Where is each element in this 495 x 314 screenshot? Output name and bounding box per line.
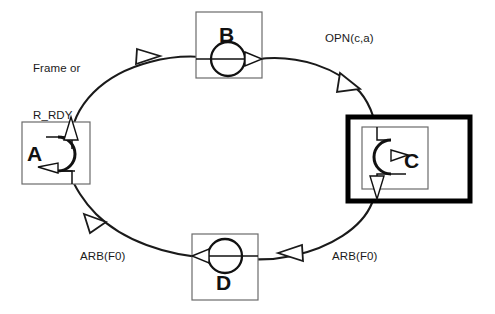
edge-label-frame-rrdy-line2: R_RDY (33, 108, 80, 124)
ring-arrowheads-group (84, 49, 360, 261)
node-d[interactable]: D (192, 234, 258, 300)
edge-label-arb-right: ARB(F0) (332, 249, 377, 265)
node-b[interactable]: B (196, 12, 262, 78)
arrowhead-b-to-c (337, 73, 360, 92)
node-c[interactable]: C (348, 117, 470, 201)
edge-label-arb-left: ARB(F0) (80, 249, 125, 265)
node-d-label: D (216, 271, 231, 294)
arrowhead-d-to-a (84, 214, 106, 233)
edge-label-frame-rrdy-line1: Frame or (33, 61, 80, 77)
node-c-label: C (404, 149, 419, 172)
ring-path-group (70, 57, 373, 260)
edge-label-opn: OPN(c,a) (325, 31, 374, 47)
edge-label-frame-rrdy: Frame or R_RDY (33, 30, 80, 154)
diagram-canvas: A B C (0, 0, 495, 314)
